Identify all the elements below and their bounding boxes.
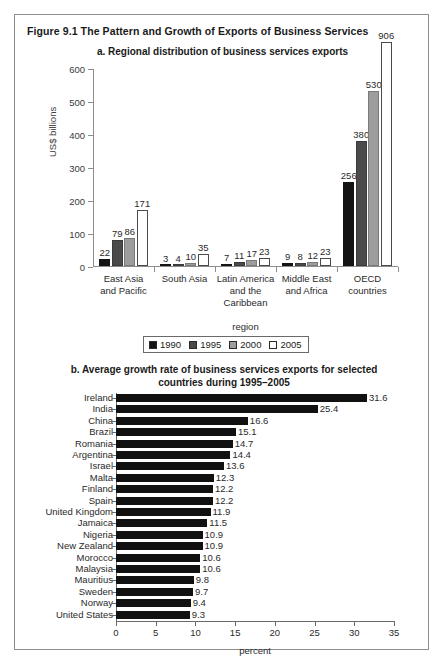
panel-a-x-tick [154,267,155,272]
panel-a-bar [356,141,367,266]
legend-label: 2005 [280,339,301,350]
panel-b-plot-area: Ireland31.6India25.4China16.6Brazil15.1R… [116,393,394,621]
panel-b-bar [116,428,236,436]
panel-a-x-tick [215,267,216,272]
panel-a-bar-value: 10 [185,251,196,262]
panel-a-bar [198,254,209,266]
panel-a-y-tick [88,69,93,70]
legend-label: 1990 [160,339,181,350]
panel-b-x-axis [116,621,394,622]
panel-a-bar-value: 12 [307,250,318,261]
legend-swatch-icon [149,341,157,349]
panel-a-category-line: countries [337,285,398,297]
panel-a-y-tick [88,201,93,202]
panel-b-bar-value: 9.7 [195,586,208,597]
panel-b-x-tick-label: 10 [190,627,201,638]
panel-b-category-label: India [92,403,113,414]
panel-b-bar-row: Brazil15.1 [116,427,394,438]
panel-b-bar [116,588,193,596]
panel-b-bar [116,576,194,584]
panel-b-bar-row: Morocco10.6 [116,553,394,564]
panel-a-y-axis [93,69,94,267]
panel-a-bar-value: 35 [198,242,209,253]
panel-b-bar [116,405,318,413]
panel-b-category-label: Norway [81,597,113,608]
panel-b-category-label: Finland [82,483,113,494]
panel-b-bar-value: 10.6 [202,552,221,563]
panel-a-bar [124,238,135,266]
panel-b-x-tick-label: 15 [230,627,241,638]
legend-swatch-icon [189,341,197,349]
panel-a-bar-value: 23 [320,246,331,257]
panel-a-y-tick-label: 0 [80,262,85,273]
panel-b-bar-row: Malta12.3 [116,473,394,484]
panel-b-bar-row: Mauritius9.8 [116,575,394,586]
panel-b-title: b. Average growth rate of business servi… [49,363,399,389]
panel-b-bar-value: 10.9 [205,529,224,540]
panel-a-y-tick [88,267,93,268]
panel-b-bar-row: Sweden9.7 [116,587,394,598]
panel-a-category-line: OECD [337,273,398,285]
panel-a-category-line: and the [215,285,276,297]
panel-b-category-label: Israel [90,460,113,471]
panel-b-bar-value: 12.2 [215,495,234,506]
panel-b-bar [116,508,211,516]
panel-a-bar-value: 79 [112,228,123,239]
panel-a-y-tick-label: 600 [69,64,85,75]
panel-b-x-tick [156,621,157,626]
legend-label: 1995 [200,339,221,350]
panel-b-bar-value: 12.2 [215,483,234,494]
panel-a-bar [282,263,293,266]
panel-a-bar [234,262,245,266]
panel-b-category-label: United States [56,609,113,620]
panel-a-plot-area: 0100200300400500600 22798617134103571117… [93,69,398,267]
panel-a-bar [368,91,379,266]
panel-a-bar [307,262,318,266]
panel-b-bar-value: 10.6 [202,563,221,574]
panel-a-legend: 1990199520002005 [143,336,309,353]
legend-item: 1995 [189,339,221,350]
panel-b-bar-value: 13.6 [226,460,245,471]
panel-b-bar-row: United States9.3 [116,610,394,621]
panel-a-bar-value: 23 [259,246,270,257]
panel-b-category-label: Spain [89,495,113,506]
panel-a-x-tick [398,267,399,272]
panel-b-bar-row: Argentina14.4 [116,450,394,461]
panel-a-bar-value: 11 [234,250,244,261]
panel-b-category-label: Romania [75,438,113,449]
panel-b-bar-value: 14.7 [235,438,254,449]
legend-item: 1990 [149,339,181,350]
panel-b-bar [116,474,214,482]
panel-a-y-tick-label: 200 [69,196,85,207]
panel-a-title: a. Regional distribution of business ser… [35,45,410,58]
panel-a-bar-value: 530 [366,79,382,90]
panel-a-bar [173,264,184,266]
panel-b-bar [116,554,200,562]
panel-b-category-label: Jamaica [78,517,113,528]
panel-a-bar [160,264,171,266]
panel-b-growth-rate: b. Average growth rate of business servi… [15,363,428,663]
panel-b-bar [116,565,200,573]
panel-b-bar [116,462,224,470]
panel-a-regional-distribution: a. Regional distribution of business ser… [15,45,428,355]
panel-b-category-label: Ireland [84,392,113,403]
panel-a-y-tick [88,168,93,169]
panel-a-bar-value: 7 [224,252,229,263]
panel-a-x-axis-label: region [93,321,398,332]
panel-b-bar [116,599,191,607]
panel-a-y-tick [88,102,93,103]
panel-b-x-tick-label: 35 [389,627,400,638]
panel-a-category-line: Middle East [276,273,337,285]
panel-a-bar-value: 17 [246,248,257,259]
figure-page: Figure 9.1 The Pattern and Growth of Exp… [0,0,443,665]
panel-a-category-line: and Africa [276,285,337,297]
panel-a-bar-value: 4 [176,253,181,264]
panel-b-category-label: Argentina [72,449,113,460]
panel-b-bar-row: New Zealand10.9 [116,541,394,552]
panel-a-bar-group: 227986171 [99,68,148,266]
panel-a-category-line: and Pacific [93,285,154,297]
panel-a-y-tick-label: 300 [69,163,85,174]
panel-a-bar-value: 3 [163,253,168,264]
panel-a-bar-group: 7111723 [221,68,270,266]
panel-a-x-tick [337,267,338,272]
